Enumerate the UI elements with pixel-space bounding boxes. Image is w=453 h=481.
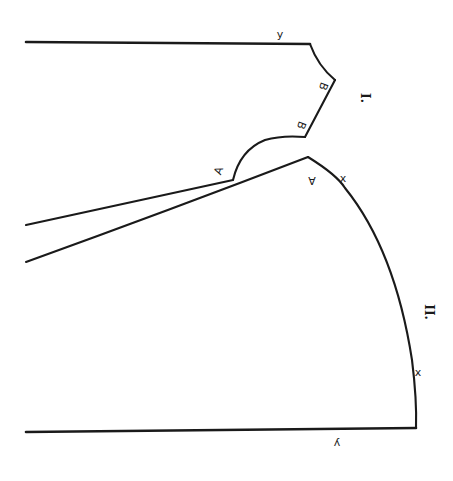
label-b-lower: B [294,119,309,131]
piece-1-side-line [26,180,233,225]
label-b-upper: B [316,80,331,92]
pattern-diagram: y B B I. A A x II. x y [0,0,453,481]
piece-1-outline [26,42,335,225]
piece-2-cap-curve [308,157,416,428]
piece-2-side-line [26,157,308,262]
piece-1-armhole-curve [233,136,305,180]
label-x-lower: x [415,366,422,379]
label-piece-1: I. [358,93,372,103]
label-a-right: A [308,174,316,187]
label-x-upper: x [340,172,347,185]
label-piece-2: II. [422,304,436,319]
top-edge-line [26,42,310,44]
bottom-edge-line [26,428,416,432]
label-y-top: y [277,28,284,41]
label-a-left: A [211,165,226,177]
piece-1-neck-curve [310,44,335,80]
label-y-bottom: y [333,437,340,450]
piece-2-outline [26,157,416,432]
